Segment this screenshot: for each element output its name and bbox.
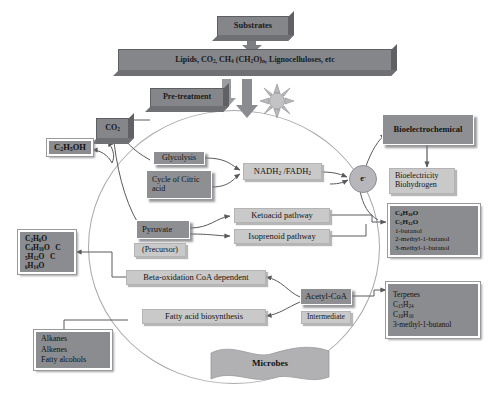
substrates-label: Substrates <box>218 21 288 31</box>
acetyl-coa-box: Acetyl-CoA <box>300 288 352 305</box>
glycolysis-box: Glycolysis <box>153 151 205 165</box>
electron-node: e- <box>349 165 377 193</box>
electron-label: e- <box>360 174 365 183</box>
isoprenoid-pathway-label: Isoprenoid pathway <box>235 232 329 242</box>
beta-oxidation-label: Beta-oxidation CoA dependent <box>127 273 265 283</box>
intermediate-box: Intermediate <box>301 311 351 324</box>
butanol-formula-1: C4H10O <box>395 209 418 217</box>
arrow-to-co2-second <box>108 141 114 163</box>
microbes-label: Microbes <box>209 358 331 368</box>
acetyl-coa-label: Acetyl-CoA <box>301 292 351 302</box>
butanol-name-3: 3-methyl-1-butanol <box>395 244 449 252</box>
citric-acid-cycle-box: Cycle of Citric acid <box>146 170 212 199</box>
intermediate-label: Intermediate <box>302 313 350 321</box>
terpenes-label: Terpenes <box>393 290 420 299</box>
alcohols-results-box: C2H6O C4H10O C 5H12O C 6H14O <box>18 230 76 274</box>
co2-label: CO2 <box>97 124 128 133</box>
fatty-alcohols-label: Fatty alcohols <box>41 355 86 364</box>
alkenes-label: Alkenes <box>41 345 67 354</box>
alkanes-label: Alkanes <box>41 334 67 343</box>
bioelectrochemical-box: Bioelectrochemical <box>382 114 474 145</box>
alcohol-formula-3: 5H12O C <box>25 252 55 261</box>
nadh-fadh-box: NADH2 /FADH2 <box>243 163 322 180</box>
isoprenoid-pathway-box: Isoprenoid pathway <box>234 229 330 244</box>
nadh-fadh-label: NADH2 /FADH2 <box>244 167 321 177</box>
butanol-name-1: 1-butanol <box>395 227 422 235</box>
fatty-acid-biosynthesis-label: Fatty acid biosynthesis <box>143 312 265 322</box>
central-cell-circle <box>88 110 380 384</box>
bioelectricity-box: Bioelectricity Biohydrogen <box>389 168 455 194</box>
substrates-block: Substrates <box>217 16 289 36</box>
ethanol-label: C2H5OH <box>49 143 91 153</box>
precursor-box: (Precursor) <box>134 243 186 257</box>
sun-burst-icon <box>260 84 294 118</box>
pretreatment-block: Pre-treatment <box>150 88 224 107</box>
ketoacid-pathway-box: Ketoacid pathway <box>234 208 330 223</box>
ethanol-box: C2H5OH <box>47 139 93 156</box>
beta-oxidation-box: Beta-oxidation CoA dependent <box>126 270 266 285</box>
terpene-formula-1: C15H24 <box>393 300 414 309</box>
biohydrogen-label: Biohydrogen <box>395 180 437 189</box>
terpenes-results-box: Terpenes C15H24 C10H16 3-methyl-1-butano… <box>386 282 480 338</box>
arrow-to-ethanol <box>92 150 112 163</box>
glycolysis-label: Glycolysis <box>154 154 204 163</box>
microbes-banner: Microbes <box>209 345 331 387</box>
citric-acid-cycle-label: Cycle of Citric acid <box>147 176 211 194</box>
butanol-formula-2: C5H12O <box>395 218 418 226</box>
terpene-name: 3-methyl-1-butanol <box>393 320 451 329</box>
bioelectricity-label: Bioelectricity <box>395 171 439 180</box>
alcohol-formula-4: 6H14O <box>25 261 44 270</box>
fatty-acid-biosynthesis-box: Fatty acid biosynthesis <box>142 309 266 324</box>
pretreatment-label: Pre-treatment <box>151 93 223 102</box>
alcohol-formula-1: C2H6O <box>25 234 47 243</box>
diagram-canvas: Substrates Lipids, CO2, CH4 (CH2O)n, Lig… <box>0 0 501 408</box>
ketoacid-pathway-label: Ketoacid pathway <box>235 211 329 221</box>
co2-block: CO2 <box>96 118 129 139</box>
alcohol-formula-2: C4H10O C <box>25 243 61 252</box>
pyruvate-box: Pyruvate <box>136 220 190 239</box>
pyruvate-label: Pyruvate <box>137 225 189 235</box>
precursor-label: (Precursor) <box>135 246 185 255</box>
substrate-list-label: Lipids, CO2, CH4 (CH2O)n, Lignocellulose… <box>119 56 391 65</box>
substrate-list-block: Lipids, CO2, CH4 (CH2O)n, Lignocellulose… <box>118 49 392 71</box>
butanol-name-2: 2-methyl-1-butanol <box>395 235 449 243</box>
bioelectrochemical-label: Bioelectrochemical <box>383 125 473 135</box>
alkanes-results-box: Alkanes Alkenes Fatty alcohols <box>34 330 112 370</box>
terpene-formula-2: C10H16 <box>393 310 414 319</box>
butanol-results-box: C4H10O C5H12O 1-butanol 2-methyl-1-butan… <box>388 204 480 257</box>
